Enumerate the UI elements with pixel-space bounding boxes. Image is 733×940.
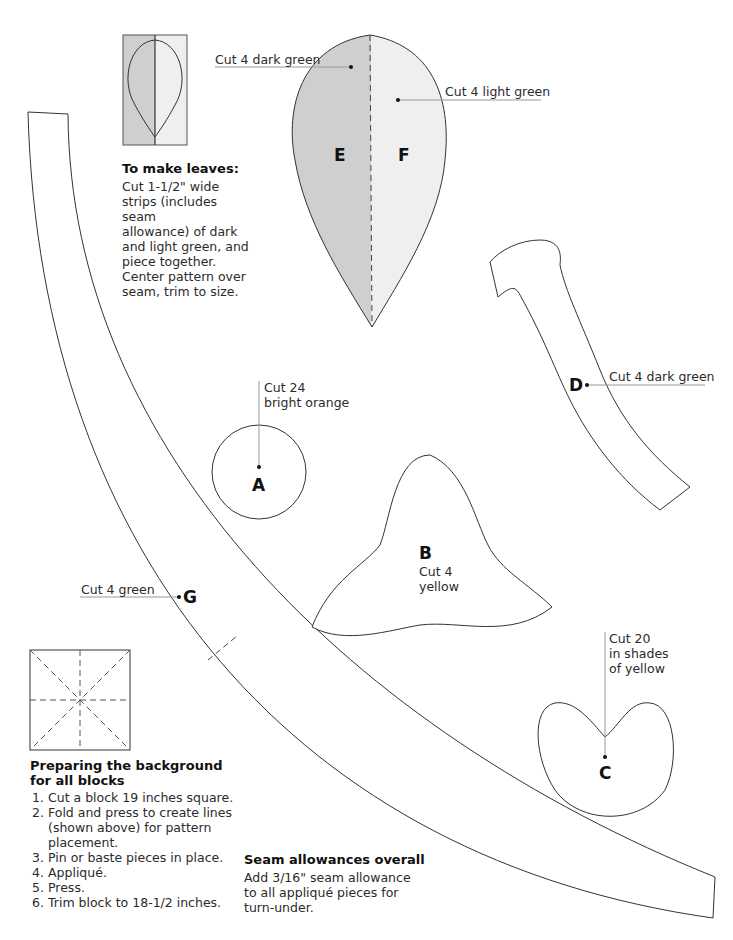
step: Appliqué. (48, 865, 235, 880)
leaves-note: To make leaves: Cut 1-1/2" wide strips (… (122, 161, 282, 299)
letter-c: C (599, 763, 611, 783)
leaf-thumbnail (123, 35, 187, 145)
piece-f-fill (371, 30, 461, 330)
seam-note: Seam allowances overall Add 3/16" seam a… (244, 852, 444, 915)
label-b: Cut 4 yellow (419, 564, 459, 594)
piece-b-outline (312, 455, 552, 636)
step: Pin or baste pieces in place. (48, 850, 235, 865)
leaves-note-title: To make leaves: (122, 161, 282, 176)
piece-e-fill (280, 30, 371, 330)
step: Fold and press to create lines (shown ab… (48, 805, 235, 850)
step: Trim block to 18-1/2 inches. (48, 895, 235, 910)
piece-c-outline (538, 703, 673, 817)
label-a: Cut 24 bright orange (264, 380, 349, 410)
step: Press. (48, 880, 235, 895)
letter-d: D (569, 375, 583, 395)
background-note: Preparing the background for all blocks … (30, 758, 235, 910)
label-g: Cut 4 green (81, 582, 155, 597)
letter-f: F (398, 145, 410, 165)
label-d: Cut 4 dark green (609, 369, 715, 384)
letter-a: A (252, 475, 265, 495)
letter-b: B (419, 543, 432, 563)
letter-g: G (183, 587, 197, 607)
label-e: Cut 4 dark green (215, 52, 321, 67)
fold-diagram (30, 650, 130, 750)
step: Cut a block 19 inches square. (48, 790, 235, 805)
letter-e: E (334, 145, 346, 165)
label-c: Cut 20 in shades of yellow (609, 631, 669, 676)
label-f: Cut 4 light green (445, 84, 550, 99)
thumb-light-strip (155, 35, 187, 145)
background-steps: Cut a block 19 inches square. Fold and p… (30, 790, 235, 910)
background-note-title: Preparing the background for all blocks (30, 758, 235, 788)
thumb-dark-strip (123, 35, 155, 145)
seam-note-title: Seam allowances overall (244, 852, 444, 867)
